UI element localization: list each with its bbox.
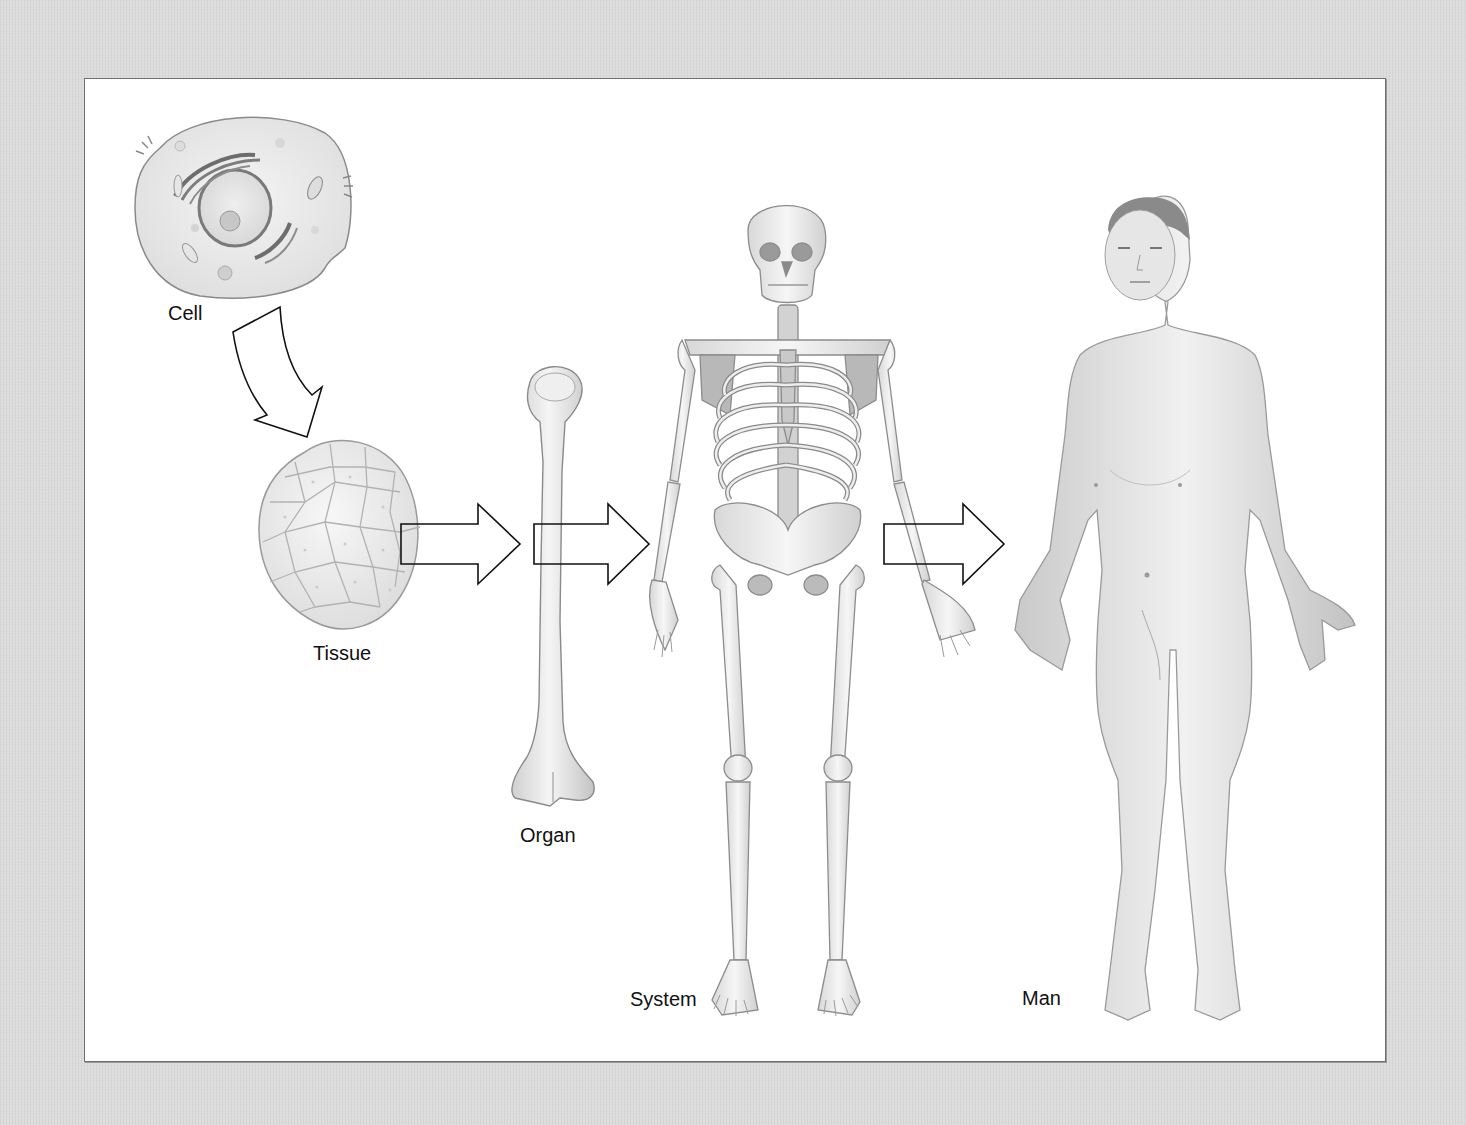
human-body-icon <box>1000 190 1360 1040</box>
cell-icon <box>130 108 370 308</box>
skeleton-icon <box>640 190 980 1030</box>
curved-arrow-icon <box>230 305 330 445</box>
stage-label-tissue: Tissue <box>313 642 371 665</box>
stage-label-organ: Organ <box>520 824 576 847</box>
block-arrow-icon <box>883 503 1008 585</box>
stage-label-cell: Cell <box>168 302 202 325</box>
stage-label-system: System <box>630 988 697 1011</box>
block-arrow-icon <box>533 503 653 585</box>
bone-icon <box>505 362 605 812</box>
stage-label-man: Man <box>1022 987 1061 1010</box>
